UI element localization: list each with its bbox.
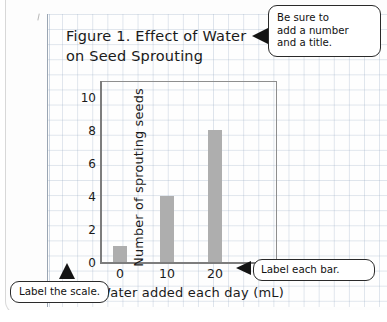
bars-layer (100, 81, 277, 262)
y-tick-label: 0 (80, 256, 96, 270)
page-bottom-edge (0, 310, 387, 322)
graph-paper-margin-rule (47, 14, 48, 307)
bar-category-10 (160, 196, 174, 262)
x-axis-title: Water added each day (mL) (86, 285, 296, 300)
callout-label-the-scale: Label the scale. (10, 281, 109, 303)
x-axis-line (100, 262, 278, 264)
left-triangle-pointer-icon (252, 28, 268, 44)
y-axis-title: Number of sprouting seeds (131, 88, 146, 268)
y-tick-labels: 0 2 4 6 8 10 (78, 81, 96, 263)
left-triangle-pointer-icon (236, 261, 251, 275)
y-tick-label: 4 (80, 190, 96, 204)
bar-category-0 (113, 246, 127, 262)
figure-title: Figure 1. Effect of Water on Seed Sprout… (66, 26, 276, 66)
x-tick-label: 20 (200, 266, 230, 281)
y-tick-label: 10 (80, 91, 96, 105)
callout-label-each-bar: Label each bar. (253, 259, 375, 281)
up-triangle-pointer-icon (59, 263, 75, 279)
worksheet-page: Figure 1. Effect of Water on Seed Sprout… (0, 0, 387, 322)
y-tick-label: 8 (80, 124, 96, 138)
x-tick-label: 0 (105, 266, 135, 281)
x-tick-label: 10 (152, 266, 182, 281)
y-tick-label: 6 (80, 157, 96, 171)
y-axis-title-wrap: Number of sprouting seeds (56, 78, 74, 268)
callout-add-number-and-title: Be sure to add a number and a title. (268, 5, 381, 57)
graph-paper-margin-rule-secondary (49, 14, 50, 307)
bar-category-20 (208, 130, 222, 262)
y-tick-label: 2 (80, 223, 96, 237)
